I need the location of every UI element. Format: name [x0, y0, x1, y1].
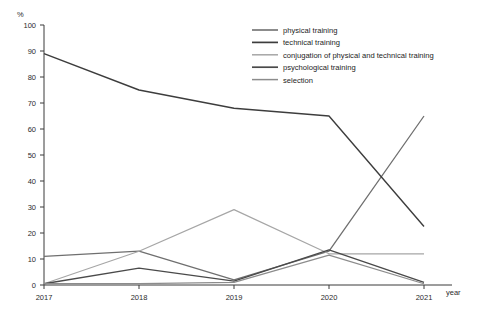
legend-label: technical training	[283, 38, 340, 47]
legend-label: physical training	[283, 26, 337, 35]
y-tick-label: 20	[28, 229, 36, 238]
legend-label: psychological training	[283, 63, 356, 72]
y-tick-label: 10	[28, 255, 36, 264]
x-tick-label: 2020	[321, 293, 338, 302]
series-line	[44, 54, 424, 227]
y-tick-label: 30	[28, 203, 36, 212]
x-tick-label: 2018	[131, 293, 148, 302]
y-axis-unit-label: %	[17, 10, 24, 19]
series-line	[44, 116, 424, 280]
series-group	[44, 54, 424, 284]
y-tick-label: 100	[23, 21, 36, 30]
legend-label: conjugation of physical and technical tr…	[283, 51, 434, 60]
line-chart: % 0102030405060708090100 201720182019202…	[0, 0, 477, 312]
x-tick-label: 2021	[416, 293, 433, 302]
y-tick-label: 50	[28, 151, 36, 160]
y-tick-label: 40	[28, 177, 36, 186]
y-axis-ticks: 0102030405060708090100	[23, 21, 44, 290]
legend-label: selection	[283, 76, 313, 85]
x-axis-label: year	[446, 288, 461, 297]
y-tick-label: 70	[28, 99, 36, 108]
x-axis-ticks: 20172018201920202021	[36, 285, 433, 302]
y-tick-label: 80	[28, 73, 36, 82]
chart-canvas: % 0102030405060708090100 201720182019202…	[0, 0, 477, 312]
y-tick-label: 60	[28, 125, 36, 134]
x-tick-label: 2017	[36, 293, 53, 302]
y-tick-label: 90	[28, 47, 36, 56]
chart-legend: physical trainingtechnical trainingconju…	[252, 26, 434, 85]
x-tick-label: 2019	[226, 293, 243, 302]
y-tick-label: 0	[32, 281, 36, 290]
series-line	[44, 210, 424, 284]
